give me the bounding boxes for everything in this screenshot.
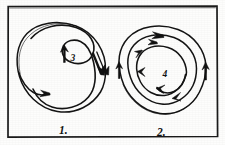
panel-2-inner-label: 4 [162,69,168,79]
vortex-arrow-up-outer-right [202,62,209,80]
vortex-arrow-left-inner-lower [138,68,146,77]
flow-arrow-right-lower-left [40,90,50,97]
panel-1-caption: 1. [59,124,68,136]
panel-2-caption: 2. [156,126,166,138]
hand-drawn-flow-diagram: 3 1. [0,0,225,145]
panel-1-s-curve-circulation: 3 1. [17,23,109,136]
vortex-arrow-right-mid-top [148,39,158,45]
panel-2-concentric-vortex: 4 2. [116,26,210,138]
figure-container: 3 1. [0,0,225,145]
panel-1-inner-label: 3 [70,53,76,63]
